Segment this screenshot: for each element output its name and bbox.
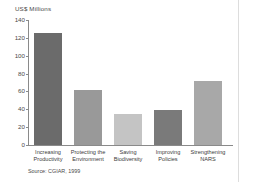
y-axis-title: US$ Millions	[15, 5, 51, 12]
y-axis-tick-label: 100	[15, 53, 25, 59]
x-axis-tick-label: Increasing Productivity	[28, 149, 68, 163]
y-axis-tick-mark	[26, 91, 28, 92]
x-axis-tick-label: Strengthening NARS	[188, 149, 228, 163]
bar	[154, 110, 182, 145]
x-axis-tick-label: Protecting the Environment	[68, 149, 108, 163]
y-axis-tick-label: 20	[18, 124, 25, 130]
bar	[114, 114, 142, 145]
plot-area: 140120100806040200	[28, 20, 228, 145]
y-axis-tick-label: 140	[15, 17, 25, 23]
y-axis-tick-mark	[26, 127, 28, 128]
y-axis-tick-label: 0	[22, 142, 25, 148]
y-axis-tick-mark	[26, 109, 28, 110]
bar	[34, 33, 62, 145]
y-axis-tick-mark	[26, 20, 28, 21]
x-axis-tick-label: Saving Biodiversity	[108, 149, 148, 163]
y-axis-tick-label: 60	[18, 88, 25, 94]
y-axis-tick-label: 80	[18, 70, 25, 76]
bar	[74, 90, 102, 145]
y-axis-tick-mark	[26, 56, 28, 57]
chart-figure: US$ Millions 140120100806040200 Source: …	[0, 0, 254, 182]
source-note: Source: CGIAR, 1999	[28, 168, 80, 174]
y-axis-tick-mark	[26, 74, 28, 75]
x-axis-tick-label: Improving Policies	[148, 149, 188, 163]
y-axis-tick-label: 120	[15, 35, 25, 41]
x-axis-line	[28, 145, 233, 146]
bar	[194, 81, 222, 145]
y-axis-tick-label: 40	[18, 106, 25, 112]
y-axis-tick-mark	[26, 145, 28, 146]
page-border-rule	[238, 0, 239, 182]
y-axis-tick-mark	[26, 38, 28, 39]
